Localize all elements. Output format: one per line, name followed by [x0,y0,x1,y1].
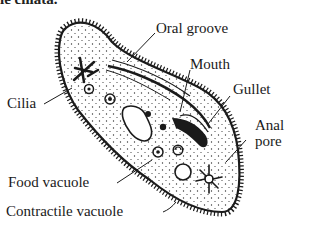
label-oral-groove: Oral groove [156,21,228,36]
paramecium-diagram: ie ciliata. [0,0,309,233]
large-vacuole [175,164,191,180]
label-mouth: Mouth [190,57,230,72]
label-cilia: Cilia [7,96,36,111]
label-food-vacuole: Food vacuole [8,175,89,190]
label-contractile-vacuole: Contractile vacuole [6,204,123,219]
label-anal-pore-line2: pore [255,134,282,149]
dark-granule [145,111,151,117]
label-anal-pore-line1: Anal [255,118,284,133]
dark-granule [160,124,166,130]
label-gullet: Gullet [233,82,271,97]
